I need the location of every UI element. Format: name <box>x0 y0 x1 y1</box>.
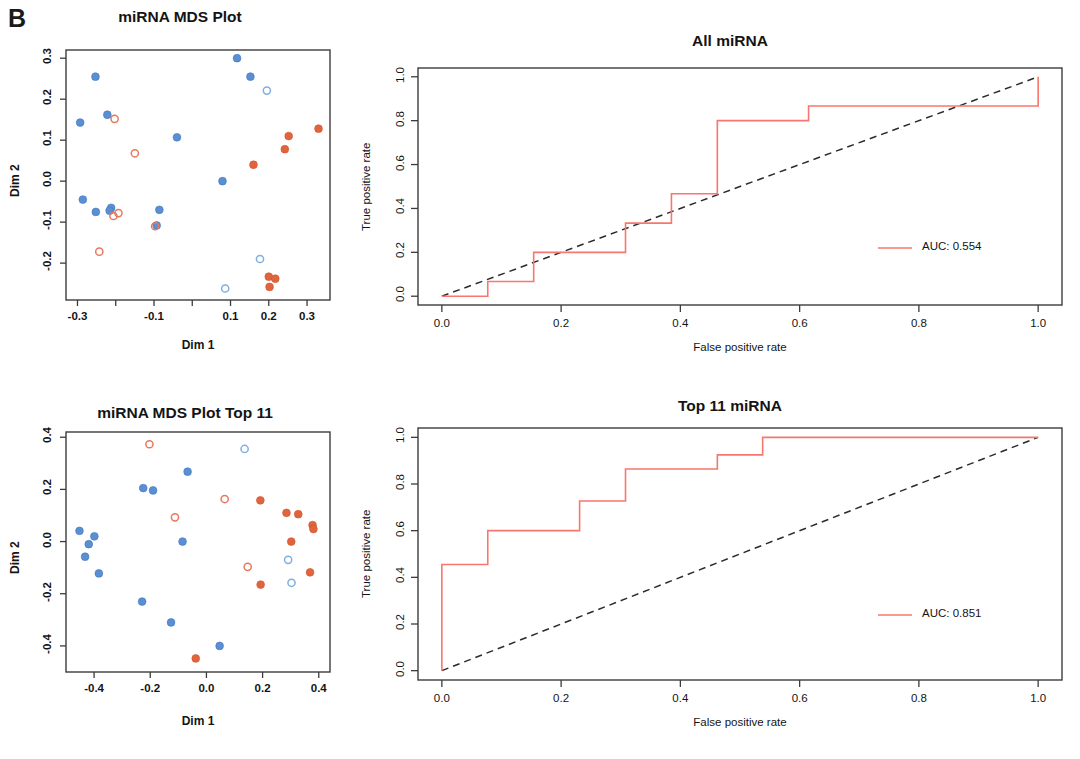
roc-all-canvas <box>380 0 1080 380</box>
y-tick-label: 1.0 <box>394 419 406 451</box>
chart-title: All miRNA <box>380 32 1080 50</box>
x-tick-label: 0.6 <box>782 317 818 329</box>
diagonal-reference-line <box>442 77 1038 296</box>
x-tick-label: -0.2 <box>135 682 165 694</box>
x-tick-label: -0.3 <box>62 310 92 322</box>
y-tick-label: 0.4 <box>394 559 406 591</box>
figure-panel-b: B miRNA MDS Plot -0.3-0.10.10.20.3-0.2-0… <box>0 0 1080 759</box>
scatter-point-group-a-filled <box>79 196 87 204</box>
x-tick-label: 1.0 <box>1020 317 1056 329</box>
y-tick-label: 0.1 <box>41 123 53 153</box>
chart-title: miRNA MDS Plot Top 11 <box>10 404 360 422</box>
scatter-point-group-a-filled <box>95 569 103 577</box>
diagonal-reference-line <box>442 437 1038 670</box>
x-axis-title: Dim 1 <box>66 338 330 352</box>
scatter-point-group-a-filled <box>233 54 241 62</box>
plot-frame <box>66 50 330 300</box>
scatter-point-group-a-open <box>288 579 295 586</box>
scatter-point-group-a-filled <box>90 532 98 540</box>
y-tick-label: -0.2 <box>41 246 53 276</box>
scatter-point-group-b-filled <box>315 125 323 133</box>
y-tick-label: 0.4 <box>394 190 406 222</box>
chart-roc-top11: Top 11 miRNA 0.00.20.40.60.81.00.00.20.4… <box>380 380 1080 759</box>
x-tick-label: 0.4 <box>662 317 698 329</box>
scatter-point-group-a-open <box>222 285 229 292</box>
scatter-point-group-a-filled <box>184 468 192 476</box>
y-tick-label: 0.3 <box>41 41 53 71</box>
scatter-point-group-a-filled <box>92 208 100 216</box>
chart-roc-all: All miRNA 0.00.20.40.60.81.00.00.20.40.6… <box>380 0 1080 380</box>
scatter-point-group-a-open <box>256 255 263 262</box>
x-tick-label: 0.2 <box>543 317 579 329</box>
scatter-point-group-a-open <box>263 87 270 94</box>
mds-top11-canvas <box>0 380 380 759</box>
x-tick-label: -0.4 <box>79 682 109 694</box>
y-axis-title: Dim 2 <box>8 164 22 197</box>
scatter-point-group-a-filled <box>179 538 187 546</box>
x-tick-label: 0.4 <box>304 682 334 694</box>
scatter-point-group-b-filled <box>257 581 265 589</box>
scatter-point-group-a-open <box>241 445 248 452</box>
y-tick-label: 0.8 <box>394 466 406 498</box>
scatter-point-group-b-filled <box>281 145 289 153</box>
y-tick-label: 0.0 <box>41 525 53 555</box>
scatter-point-group-a-filled <box>216 642 224 650</box>
legend-auc-label: AUC: 0.851 <box>922 607 981 619</box>
scatter-point-group-b-open <box>131 150 138 157</box>
y-tick-label: 0.6 <box>394 147 406 179</box>
scatter-point-group-a-filled <box>138 598 146 606</box>
x-tick-label: 0.0 <box>424 692 460 704</box>
chart-title: Top 11 miRNA <box>380 397 1080 415</box>
y-axis-title: True positive rate <box>360 142 372 230</box>
x-tick-label: -0.1 <box>139 310 169 322</box>
x-tick-label: 0.2 <box>248 682 278 694</box>
scatter-point-group-b-filled <box>285 132 293 140</box>
x-axis-title: False positive rate <box>418 341 1062 353</box>
y-tick-label: 0.2 <box>41 82 53 112</box>
scatter-point-group-a-filled <box>76 527 84 535</box>
y-tick-label: 0.2 <box>394 234 406 266</box>
y-tick-label: 0.6 <box>394 513 406 545</box>
y-tick-label: 0.2 <box>394 606 406 638</box>
scatter-point-group-b-open <box>96 248 103 255</box>
scatter-point-group-b-filled <box>306 568 314 576</box>
chart-title: miRNA MDS Plot <box>10 8 350 26</box>
x-tick-label: 0.2 <box>254 310 284 322</box>
y-tick-label: 0.8 <box>394 103 406 135</box>
y-axis-title: Dim 2 <box>8 541 22 574</box>
scatter-point-group-a-filled <box>139 484 147 492</box>
scatter-point-group-a-filled <box>76 119 84 127</box>
scatter-point-group-a-filled <box>149 487 157 495</box>
scatter-point-group-b-open <box>244 563 251 570</box>
scatter-point-group-a-filled <box>92 73 100 81</box>
x-tick-label: 0.4 <box>662 692 698 704</box>
scatter-point-group-a-filled <box>247 73 255 81</box>
scatter-point-group-a-filled <box>173 133 181 141</box>
y-tick-label: -0.4 <box>41 629 53 659</box>
scatter-point-group-b-filled <box>250 161 258 169</box>
roc-top11-canvas <box>380 380 1080 759</box>
legend-auc-label: AUC: 0.554 <box>922 240 981 252</box>
y-tick-label: 0.0 <box>41 164 53 194</box>
scatter-point-group-a-filled <box>81 553 89 561</box>
scatter-point-group-a-open <box>285 556 292 563</box>
x-tick-label: 0.1 <box>216 310 246 322</box>
scatter-point-group-b-open <box>221 495 228 502</box>
x-axis-title: False positive rate <box>418 716 1062 728</box>
y-tick-label: -0.1 <box>41 205 53 235</box>
x-tick-label: 0.0 <box>424 317 460 329</box>
scatter-point-group-a-filled <box>219 177 227 185</box>
scatter-point-group-b-filled <box>256 496 264 504</box>
x-tick-label: 0.0 <box>191 682 221 694</box>
y-axis-title: True positive rate <box>360 510 372 598</box>
y-tick-label: 0.0 <box>394 278 406 310</box>
y-tick-label: 1.0 <box>394 59 406 91</box>
scatter-point-group-a-filled <box>85 540 93 548</box>
y-tick-label: -0.2 <box>41 577 53 607</box>
x-tick-label: 0.8 <box>901 317 937 329</box>
x-tick-label: 1.0 <box>1020 692 1056 704</box>
plot-frame <box>66 432 330 672</box>
x-tick-label: 0.8 <box>901 692 937 704</box>
scatter-point-group-b-open <box>146 441 153 448</box>
scatter-point-group-a-filled <box>155 206 163 214</box>
